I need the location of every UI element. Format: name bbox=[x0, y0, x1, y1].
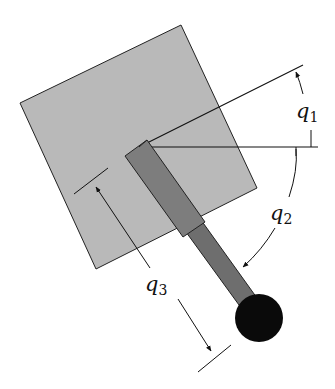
q2-arc-upper bbox=[289, 149, 296, 197]
q3-label: q3 bbox=[145, 272, 167, 298]
q3-arrow-lower bbox=[178, 299, 211, 351]
end-effector bbox=[235, 294, 283, 342]
q3-tick-end bbox=[198, 345, 231, 372]
q2-label: q2 bbox=[270, 201, 292, 227]
robot-arm-diagram: q1 q2 q3 bbox=[0, 0, 335, 389]
q2-arc-lower bbox=[243, 228, 275, 267]
q1-arrow bbox=[296, 72, 303, 94]
q1-label: q1 bbox=[296, 99, 318, 125]
